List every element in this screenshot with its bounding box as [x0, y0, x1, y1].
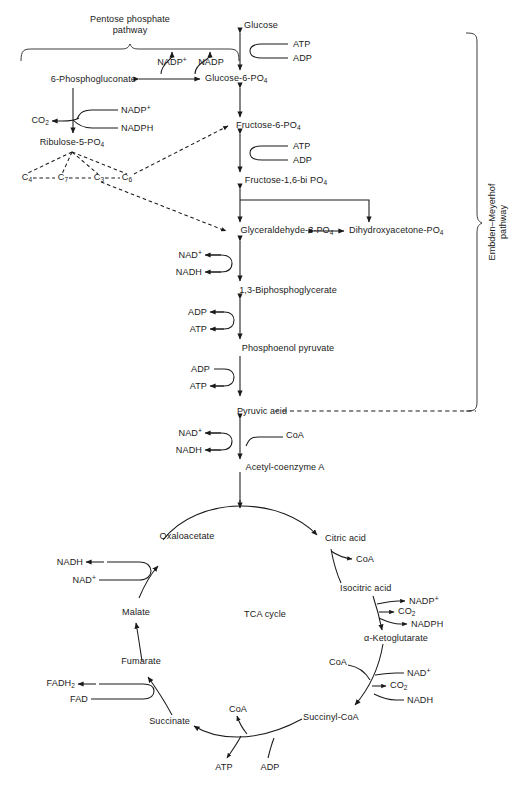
line-adp-scs — [268, 738, 274, 758]
cofactor-nadp-plus-g6pdh-text: NADP — [157, 57, 183, 67]
arrow-atp-scs — [227, 736, 241, 758]
arc-succinylcoa-1 — [237, 719, 302, 737]
carbon-unit-c3-text: C — [94, 172, 101, 182]
curve-nad-nadh-pdh — [207, 433, 232, 450]
arrow-coa-scs — [237, 716, 247, 734]
cofactor-nad-plus-pdh-sup: + — [198, 427, 202, 434]
metabolite-fructose-6-po4-sub: 4 — [297, 124, 301, 131]
cofactor-nadp-plus-6pgdh-text: NADP — [121, 105, 147, 115]
metabolite-glyceraldehyde-3-po4-sub: 4 — [330, 229, 334, 236]
metabolite-glucose-6-po4-sub: 4 — [264, 77, 268, 84]
carbon-unit-c6-text: C — [122, 172, 129, 182]
cofactor-co2-kgdh-sub: 2 — [404, 684, 408, 691]
metabolite-succinyl-coa: Succinyl-CoA — [303, 712, 359, 723]
cofactor-nad-plus-pdh: NAD+ — [178, 427, 202, 438]
cofactor-atp-hexokinase: ATP — [293, 39, 310, 50]
ppp-heading-line2: pathway — [113, 25, 148, 35]
curve-nad-nadh-gapdh — [207, 255, 232, 272]
curve-adp-atp-pgk — [214, 312, 234, 329]
curve-nadp-plus-6pgdh — [77, 110, 118, 119]
emp-heading-line2: pathway — [498, 205, 508, 239]
metabolite-6-phosphogluconate: 6-Phosphogluconate — [51, 74, 136, 85]
curve-atp-adp-pfk — [250, 146, 288, 160]
carbon-unit-c4-text: C — [22, 172, 29, 182]
metabolite-pyruvic-acid: Pyruvic acid — [237, 406, 287, 417]
cofactor-adp-pk: ADP — [191, 364, 210, 375]
carbon-unit-c6-sub: 6 — [128, 176, 132, 183]
cofactor-co2-kgdh: CO2 — [390, 680, 408, 691]
cofactor-nadph-idh: NADPH — [411, 619, 443, 630]
ppp-heading-line1: Pentose phosphate — [90, 14, 170, 24]
arrow-nadp-plus-idh — [377, 601, 405, 604]
cofactor-coa-citrate-synthase: CoA — [356, 554, 374, 565]
metabolite-glucose-6-po4: Glucose-6-PO4 — [205, 73, 268, 84]
metabolite-fructose-6-po4-text: Fructose-6-PO — [236, 120, 297, 130]
cofactor-nadh-kgdh: NADH — [407, 695, 433, 706]
metabolite-ribulose-5-po4: Ribulose-5-PO4 — [40, 137, 105, 148]
arrow-coa-citrate-synthase — [331, 551, 352, 559]
cofactor-adp-scs: ADP — [261, 762, 280, 773]
embden-meyerhof-pathway-heading: Embden–Meyerhof pathway — [487, 184, 510, 261]
metabolite-1-3-biphosphoglycerate: 1,3-Biphosphoglycerate — [239, 285, 337, 296]
cofactor-adp-pgk: ADP — [188, 307, 207, 318]
cofactor-fad-sdh: FAD — [70, 694, 88, 705]
carbon-unit-c7-sub: 7 — [64, 176, 68, 183]
line-nad-kgdh — [375, 673, 404, 675]
metabolite-fructose-6-po4: Fructose-6-PO4 — [236, 120, 301, 131]
cofactor-nad-plus-kgdh-sup: + — [427, 667, 431, 674]
metabolite-phosphoenol-pyruvate: Phosphoenol pyruvate — [242, 343, 335, 354]
cofactor-nad-plus-mdh: NAD+ — [72, 574, 96, 585]
cofactor-nadp-plus-idh-text: NADP — [409, 596, 435, 606]
cofactor-nadp-plus-idh: NADP+ — [409, 595, 439, 606]
curve-adp-atp-pk — [214, 369, 234, 386]
metabolite-ribulose-5-po4-sub: 4 — [101, 141, 105, 148]
metabolite-ribulose-5-po4-text: Ribulose-5-PO — [40, 137, 101, 147]
cofactor-coa-scs: CoA — [229, 704, 247, 715]
metabolic-pathway-diagram: Pentose phosphate pathway Embden–Meyerho… — [0, 0, 531, 786]
metabolite-malate: Malate — [122, 607, 150, 618]
cofactor-nad-plus-gapdh-text: NAD — [178, 250, 198, 260]
cofactor-nad-plus-pdh-text: NAD — [178, 428, 198, 438]
metabolite-co2-ppp-text: CO — [31, 115, 45, 125]
cofactor-nad-plus-kgdh-text: NAD — [407, 668, 427, 678]
cofactor-atp-pfk: ATP — [293, 141, 310, 152]
metabolite-fructose-1-6-bi-po4: Fructose-1,6-bi PO4 — [245, 175, 327, 186]
metabolite-dihydroxyacetone-po4-sub: 4 — [440, 229, 444, 236]
carbon-unit-c7: C7 — [58, 172, 68, 183]
cofactor-fadh2-sdh-text: FADH — [47, 678, 72, 688]
diagram-lines-layer — [0, 0, 531, 786]
cofactor-nadp-plus-6pgdh: NADP+ — [121, 104, 151, 115]
carbon-unit-c3-sub: 3 — [100, 176, 104, 183]
cofactor-nad-plus-mdh-sup: + — [92, 574, 96, 581]
cofactor-nadp-plus-g6pdh-sup: + — [183, 56, 187, 63]
carbon-unit-c3: C3 — [94, 172, 104, 183]
cofactor-nad-plus-kgdh: NAD+ — [407, 667, 431, 678]
metabolite-fumarate: Fumarate — [121, 656, 161, 667]
metabolite-dihydroxyacetone-po4-text: Dihydroxyacetone-PO — [349, 225, 440, 235]
curve-coa-kgdh — [348, 665, 370, 680]
cofactor-nadp-g6pdh: NADP — [198, 57, 224, 68]
pentose-phosphate-pathway-heading: Pentose phosphate pathway — [90, 14, 170, 37]
cofactor-fadh2-sdh-sub: 2 — [71, 682, 75, 689]
metabolite-acetyl-coenzyme-a: Acetyl-coenzyme A — [245, 462, 324, 473]
cofactor-coa-pdh: CoA — [286, 430, 304, 441]
cofactor-co2-idh-text: CO — [398, 606, 412, 616]
arrow-malate-oaa — [139, 566, 158, 598]
cofactor-atp-scs: ATP — [215, 762, 232, 773]
metabolite-citric-acid: Citric acid — [325, 533, 366, 544]
carbon-unit-c4-sub: 4 — [28, 176, 32, 183]
carbon-unit-c7-text: C — [58, 172, 65, 182]
metabolite-co2-ppp-sub: 2 — [45, 119, 49, 126]
metabolite-fructose-1-6-bi-po4-sub: 4 — [323, 179, 327, 186]
metabolite-oxaloacetate: Oxaloacetate — [160, 531, 215, 542]
cofactor-nad-plus-gapdh: NAD+ — [178, 249, 202, 260]
arrow-isocitrate-kg — [373, 596, 382, 630]
curve-fad-fadh2 — [91, 684, 154, 699]
embden-meyerhof-brace — [466, 33, 482, 411]
metabolite-glyceraldehyde-3-po4-text: Glyceraldehyde-3-PO — [240, 225, 329, 235]
metabolite-succinate: Succinate — [149, 716, 190, 727]
metabolite-glucose: Glucose — [244, 20, 278, 31]
cofactor-nad-plus-mdh-text: NAD — [72, 575, 92, 585]
cofactor-nad-plus-gapdh-sup: + — [198, 249, 202, 256]
cofactor-coa-kgdh: CoA — [329, 657, 347, 668]
